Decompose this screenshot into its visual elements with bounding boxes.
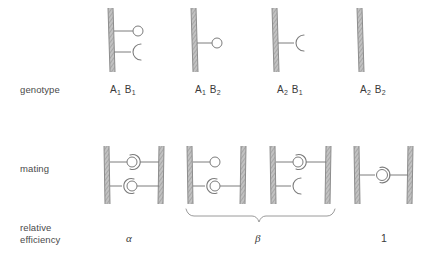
gene-b-symbol: B [290, 84, 299, 95]
genotype-caption-col-4: A2B2 [360, 84, 387, 95]
receptor-circle-icon [197, 38, 222, 48]
genotype-caption-col-1: A1B1 [110, 84, 137, 95]
mating-pair-col-4 [354, 146, 413, 204]
gene-b-symbol: B [123, 84, 132, 95]
gene-b-symbol: B [208, 84, 217, 95]
mating-pair-col-2 [187, 146, 246, 204]
efficiency-value-col-1: α [126, 232, 132, 244]
mating-junction-upper [276, 155, 326, 170]
grouping-brace [186, 209, 335, 222]
gene-b-symbol: B [373, 84, 382, 95]
gene-b-subscript: 1 [132, 89, 138, 96]
gene-a-symbol: A [277, 84, 284, 95]
cup-crescent-icon [278, 35, 304, 51]
mating-junction-upper [193, 157, 220, 167]
mating-junction-middle [360, 167, 408, 183]
receptor-circle-icon [114, 26, 143, 36]
gene-b-subscript: 1 [299, 89, 305, 96]
gene-a-symbol: A [110, 84, 117, 95]
genotype-cell-col-1 [108, 8, 143, 72]
diagram-artwork [0, 0, 428, 265]
mating-pair-col-1 [104, 146, 164, 204]
genotype-cell-col-2 [191, 8, 222, 72]
row-label-relative-efficiency: relative efficiency [20, 222, 60, 246]
figure-canvas: genotype mating relative efficiency A1B1… [0, 0, 428, 265]
mating-junction-lower [193, 179, 241, 194]
row-label-mating: mating [20, 163, 49, 175]
mating-pair-col-3 [270, 146, 331, 204]
genotype-caption-col-3: A2B1 [277, 84, 304, 95]
gene-a-symbol: A [195, 84, 202, 95]
gene-b-subscript: 2 [217, 89, 223, 96]
gene-a-symbol: A [360, 84, 367, 95]
efficiency-value-brace: β [255, 232, 260, 244]
genotype-cell-col-4 [357, 8, 364, 72]
genotype-caption-col-2: A1B2 [195, 84, 222, 95]
cup-crescent-icon [114, 44, 141, 60]
gene-a-subscript: 1 [117, 89, 123, 96]
gene-a-subscript: 2 [367, 89, 373, 96]
mating-junction-lower [110, 179, 159, 194]
gene-a-subscript: 1 [202, 89, 208, 96]
gene-a-subscript: 2 [284, 89, 290, 96]
efficiency-value-col-4: 1 [381, 232, 387, 244]
gene-b-subscript: 2 [382, 89, 388, 96]
row-label-genotype: genotype [20, 84, 60, 96]
genotype-cell-col-3 [272, 8, 304, 72]
mating-junction-lower [276, 178, 301, 194]
mating-junction-upper [110, 155, 159, 170]
